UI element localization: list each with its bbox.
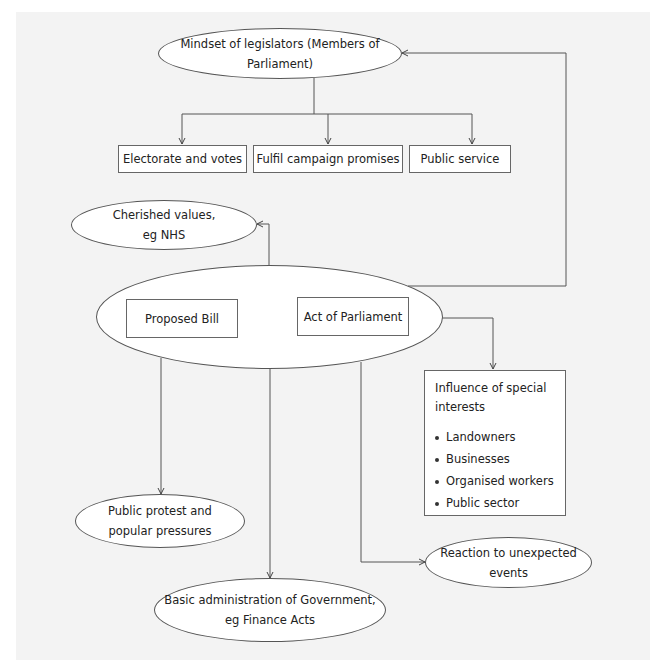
cherished-values-ellipse: Cherished values, eg NHS	[71, 200, 257, 250]
cherished-values-line2: eg NHS	[143, 225, 186, 245]
unexpected-events-ellipse: Reaction to unexpected events	[425, 537, 592, 588]
motive-box-electorate: Electorate and votes	[118, 145, 247, 173]
act-of-parliament-label: Act of Parliament	[304, 307, 403, 327]
public-protest-line2: popular pressures	[108, 521, 211, 541]
special-interests-title: Influence of special interests	[435, 379, 555, 417]
list-item: Organised workers	[435, 471, 555, 491]
special-interests-list: Landowners Businesses Organised workers …	[435, 427, 555, 513]
bullet-icon	[435, 458, 439, 462]
legislators-mindset-label: Mindset of legislators (Members of Parli…	[159, 34, 401, 74]
list-item: Public sector	[435, 493, 555, 513]
act-of-parliament-box: Act of Parliament	[297, 297, 409, 336]
cherished-values-line1: Cherished values,	[113, 205, 216, 225]
basic-administration-line1: Basic administration of Government,	[164, 590, 375, 610]
proposed-bill-label: Proposed Bill	[145, 309, 219, 329]
motive-box-campaign-promises: Fulfil campaign promises	[253, 145, 403, 173]
list-item: Businesses	[435, 449, 555, 469]
special-interests-box: Influence of special interests Landowner…	[424, 370, 566, 516]
public-protest-ellipse: Public protest and popular pressures	[75, 494, 245, 548]
motive-label: Electorate and votes	[123, 149, 242, 169]
public-protest-line1: Public protest and	[108, 501, 212, 521]
bullet-icon	[435, 436, 439, 440]
unexpected-events-line2: events	[489, 563, 528, 583]
proposed-bill-box: Proposed Bill	[126, 299, 238, 338]
legislators-mindset-ellipse: Mindset of legislators (Members of Parli…	[158, 28, 402, 79]
unexpected-events-line1: Reaction to unexpected	[440, 543, 577, 563]
bullet-icon	[435, 480, 439, 484]
bullet-icon	[435, 502, 439, 506]
list-item: Landowners	[435, 427, 555, 447]
basic-administration-ellipse: Basic administration of Government, eg F…	[154, 578, 386, 642]
motive-box-public-service: Public service	[409, 145, 511, 173]
motive-label: Fulfil campaign promises	[256, 149, 399, 169]
basic-administration-line2: eg Finance Acts	[225, 610, 315, 630]
motive-label: Public service	[421, 149, 500, 169]
